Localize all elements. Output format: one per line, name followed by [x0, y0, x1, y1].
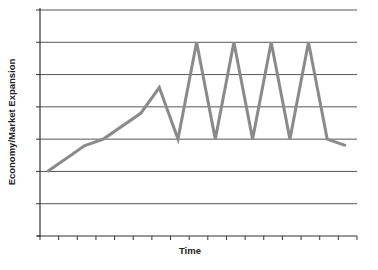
- gridlines: [40, 10, 357, 204]
- line-chart: [0, 0, 378, 270]
- y-axis-label: Economy/Market Expansion: [6, 59, 17, 186]
- x-axis-label: Time: [179, 245, 201, 256]
